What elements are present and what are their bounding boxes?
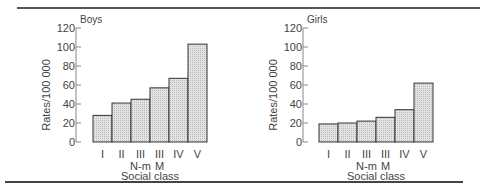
bar	[150, 88, 169, 142]
bar	[93, 115, 112, 142]
bar	[338, 123, 357, 142]
y-tick-label: 60	[63, 79, 75, 91]
y-tick-label: 60	[290, 79, 302, 91]
chart-title: Boys	[80, 14, 102, 25]
x-tick-label: I	[101, 148, 104, 160]
x-tick-label: III	[362, 148, 371, 160]
y-tick-label: 40	[290, 98, 302, 110]
bar	[169, 78, 188, 142]
y-tick-label: 120	[284, 22, 302, 34]
y-tick-label: 40	[63, 98, 75, 110]
y-tick-label: 20	[290, 117, 302, 129]
bar	[112, 103, 131, 142]
bar	[188, 44, 207, 142]
y-tick-label: 120	[57, 22, 75, 34]
x-axis-label: Social class	[121, 170, 180, 182]
x-tick-label: IV	[399, 148, 410, 160]
x-tick-label: V	[420, 148, 428, 160]
y-tick-label: 100	[57, 41, 75, 53]
girls-chart: Girls020406080100120Rates/100 000IIIIIIN…	[227, 0, 427, 192]
x-tick-label: II	[118, 148, 124, 160]
bar	[395, 110, 414, 142]
y-axis-label: Rates/100 000	[40, 59, 52, 131]
x-axis-label: Social class	[347, 170, 406, 182]
x-tick-label: III	[381, 148, 390, 160]
bar	[414, 83, 433, 142]
x-tick-label: III	[136, 148, 145, 160]
chart-title: Girls	[307, 14, 328, 25]
x-tick-label: I	[327, 148, 330, 160]
y-tick-label: 80	[63, 60, 75, 72]
y-tick-label: 20	[63, 117, 75, 129]
x-tick-label: IV	[173, 148, 184, 160]
y-tick-label: 100	[284, 41, 302, 53]
bar	[131, 99, 150, 142]
bar	[319, 124, 338, 142]
x-tick-label: III	[155, 148, 164, 160]
y-tick-label: 80	[290, 60, 302, 72]
bar	[376, 117, 395, 142]
boys-chart: Boys020406080100120Rates/100 000IIIIIIN-…	[0, 0, 200, 192]
x-tick-label: II	[344, 148, 350, 160]
y-axis-label: Rates/100 000	[267, 59, 279, 131]
y-tick-label: 0	[69, 136, 75, 148]
x-tick-label: V	[194, 148, 202, 160]
bar	[357, 121, 376, 142]
y-tick-label: 0	[296, 136, 302, 148]
